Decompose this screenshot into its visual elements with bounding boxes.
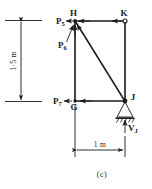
node-label-K: K	[120, 8, 127, 18]
vertical-dimension-group: 1·5 m	[5, 21, 42, 102]
force-P7-label: P7	[53, 96, 63, 107]
arrow-diagonal-to-H	[77, 25, 83, 35]
force-P5-subscript: 5	[62, 20, 66, 27]
force-P5-label: P5	[56, 16, 66, 27]
figure-container: 1·5 m	[0, 0, 152, 189]
horizontal-dimension-group: 1 m	[75, 104, 125, 157]
structural-diagram-svg: 1·5 m	[0, 0, 152, 189]
node-label-H: H	[70, 8, 77, 18]
figure-caption: (c)	[97, 170, 108, 179]
force-VJ-group: VJ	[125, 120, 139, 134]
node-K-marker	[123, 19, 127, 23]
support-triangle-icon	[117, 102, 133, 117]
force-P6-label: P6	[58, 40, 68, 51]
force-VJ-label: VJ	[128, 123, 139, 134]
force-VJ-subscript: J	[135, 127, 139, 134]
node-label-J: J	[131, 92, 136, 102]
support-at-J-group	[116, 102, 135, 123]
force-P7-subscript: 7	[59, 100, 63, 107]
vertical-dimension-label: 1·5 m	[9, 51, 18, 71]
node-H-marker	[73, 19, 77, 23]
force-P6-group: P6	[58, 25, 74, 51]
force-P6-arrow	[67, 25, 74, 42]
horizontal-dimension-label: 1 m	[94, 140, 107, 149]
node-label-G: G	[70, 102, 77, 112]
member-force-arrows-group	[75, 21, 122, 101]
force-P5-group: P5	[56, 16, 73, 27]
force-P6-subscript: 6	[64, 44, 68, 51]
force-P7-group: P7	[53, 96, 72, 107]
